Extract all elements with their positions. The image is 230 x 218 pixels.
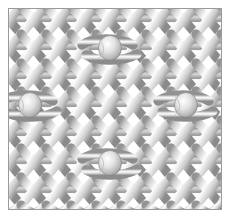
knit-structure-group (0, 6, 230, 214)
figure-canvas (0, 0, 230, 218)
knit-fabric-diagram (0, 0, 230, 218)
